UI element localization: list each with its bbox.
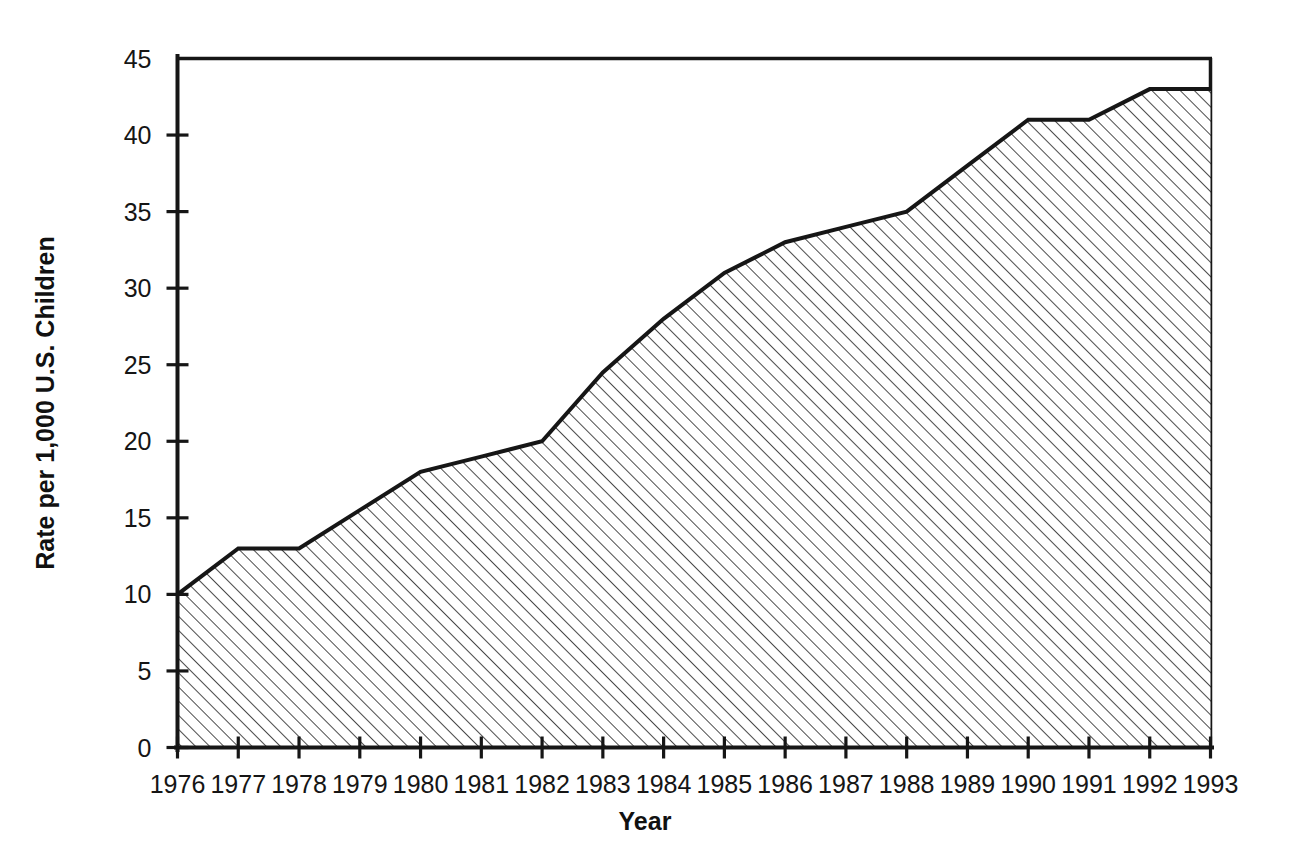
x-tick-label: 1990: [1000, 770, 1056, 798]
y-tick-label: 15: [124, 504, 152, 532]
area-chart: 051015202530354045 197619771978197919801…: [0, 0, 1296, 849]
y-tick-label: 5: [138, 657, 152, 685]
x-tick-label: 1985: [697, 770, 753, 798]
y-tick-label: 25: [124, 351, 152, 379]
x-tick-label: 1980: [393, 770, 449, 798]
x-tick-label: 1976: [150, 770, 206, 798]
x-tick-label: 1989: [940, 770, 996, 798]
x-tick-label: 1988: [879, 770, 935, 798]
x-tick-label: 1977: [210, 770, 266, 798]
y-tick-label: 20: [124, 427, 152, 455]
y-tick-label: 45: [124, 45, 152, 73]
x-tick-label: 1991: [1061, 770, 1117, 798]
x-tick-label: 1992: [1122, 770, 1178, 798]
y-tick-label: 0: [138, 734, 152, 762]
y-tick-label: 35: [124, 198, 152, 226]
x-tick-label: 1979: [332, 770, 388, 798]
chart-figure: 051015202530354045 197619771978197919801…: [0, 0, 1296, 849]
x-tick-label: 1982: [514, 770, 570, 798]
x-axis-title: Year: [619, 807, 672, 835]
y-axis-title: Rate per 1,000 U.S. Children: [31, 236, 59, 569]
x-tick-label: 1981: [454, 770, 510, 798]
x-tick-label: 1978: [271, 770, 327, 798]
x-tick-label: 1986: [757, 770, 813, 798]
y-tick-label: 10: [124, 580, 152, 608]
x-tick-label: 1993: [1183, 770, 1239, 798]
y-tick-label: 30: [124, 274, 152, 302]
x-tick-label: 1987: [818, 770, 874, 798]
y-tick-label: 40: [124, 121, 152, 149]
x-tick-label: 1984: [636, 770, 692, 798]
x-tick-label: 1983: [575, 770, 631, 798]
